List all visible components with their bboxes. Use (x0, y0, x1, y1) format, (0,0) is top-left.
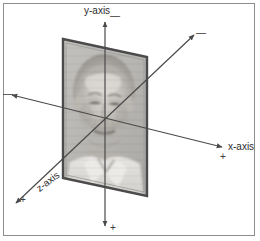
z-axis-negative-sign: — (196, 27, 206, 38)
y-axis-positive-sign: + (110, 222, 116, 233)
axes-diagram-canvas (0, 0, 260, 241)
y-axis-negative-sign: — (110, 10, 120, 21)
figure-root: y-axis x-axis z-axis — + — + — + (0, 0, 260, 241)
x-axis-positive-sign: + (220, 151, 226, 162)
z-axis-positive-sign: + (20, 194, 26, 205)
x-axis-negative-sign: — (3, 88, 13, 99)
y-axis-label: y-axis (84, 5, 110, 16)
x-axis-label: x-axis (228, 141, 254, 152)
